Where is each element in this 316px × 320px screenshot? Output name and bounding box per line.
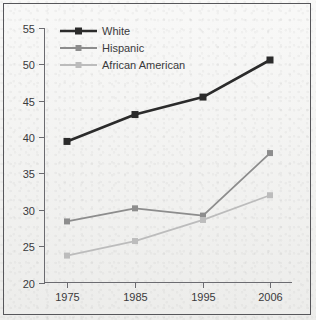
y-tick-label: 55 — [23, 23, 35, 35]
legend-marker-swatch — [76, 62, 82, 68]
series-line — [67, 195, 270, 255]
data-series-group — [64, 56, 274, 258]
series-african-american — [64, 192, 273, 258]
x-tick-label: 1995 — [191, 291, 215, 303]
x-tick-label: 1975 — [55, 291, 79, 303]
legend-label: Hispanic — [102, 42, 145, 54]
legend-label: White — [102, 25, 130, 37]
x-tick-label: 1985 — [123, 291, 147, 303]
series-hispanic — [64, 150, 273, 224]
legend-item-white[interactable]: White — [60, 25, 130, 37]
series-line — [67, 60, 270, 141]
legend-label: African American — [102, 59, 185, 71]
y-tick-label: 35 — [23, 168, 35, 180]
y-tick-label: 30 — [23, 205, 35, 217]
y-axis-tick-labels: 2025303540455055 — [23, 23, 35, 290]
series-marker — [200, 94, 207, 101]
series-line — [67, 153, 270, 221]
y-tick-label: 20 — [23, 278, 35, 290]
x-tick-label: 2006 — [258, 291, 282, 303]
chart-page: 2025303540455055 1975198519952006 WhiteH… — [0, 0, 316, 320]
legend-item-african-american[interactable]: African American — [60, 59, 185, 71]
x-axis-tick-labels: 1975198519952006 — [55, 291, 282, 303]
series-marker — [267, 56, 274, 63]
series-marker — [132, 111, 139, 118]
y-tick-label: 45 — [23, 96, 35, 108]
series-marker — [64, 218, 70, 224]
series-marker — [64, 253, 70, 259]
series-marker — [267, 192, 273, 198]
legend-marker-swatch — [75, 28, 82, 35]
line-chart: 2025303540455055 1975198519952006 WhiteH… — [0, 0, 316, 320]
y-tick-label: 50 — [23, 59, 35, 71]
y-tick-label: 25 — [23, 241, 35, 253]
series-marker — [64, 138, 71, 145]
legend-marker-swatch — [76, 45, 82, 51]
legend-item-hispanic[interactable]: Hispanic — [60, 42, 145, 54]
y-tick-label: 40 — [23, 132, 35, 144]
chart-legend: WhiteHispanicAfrican American — [60, 25, 185, 71]
y-axis-ticks — [39, 29, 45, 284]
series-marker — [132, 238, 138, 244]
series-marker — [132, 205, 138, 211]
series-marker — [200, 217, 206, 223]
series-marker — [267, 150, 273, 156]
x-axis-ticks — [68, 283, 271, 289]
